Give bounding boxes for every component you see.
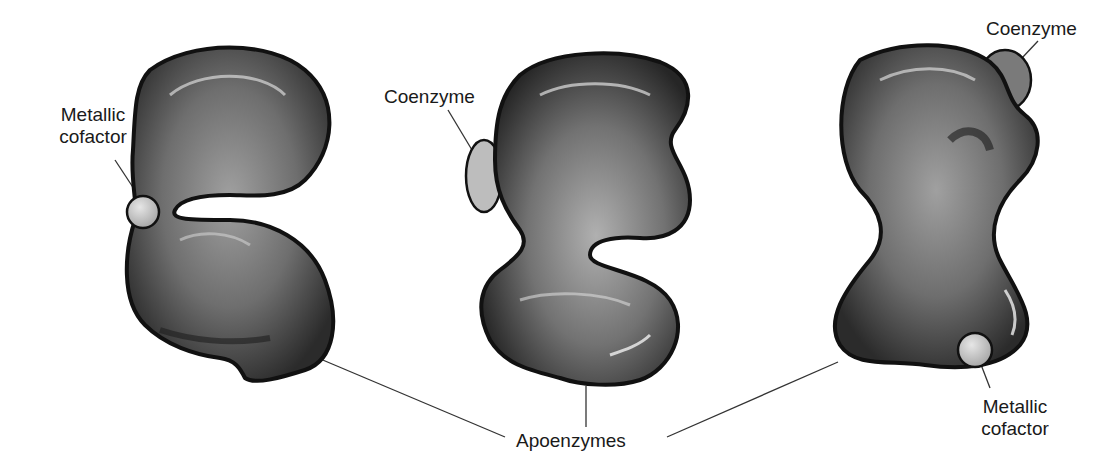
enzyme-diagram [0,0,1111,472]
label-line: cofactor [38,126,148,148]
label-line: cofactor [960,418,1070,440]
label-metallic-cofactor-right: Metallic cofactor [960,396,1070,440]
metallic-cofactor-left [127,196,159,228]
label-line: Metallic [960,396,1070,418]
label-coenzyme-middle: Coenzyme [384,86,475,108]
label-line: Metallic [38,104,148,126]
metallic-cofactor-right [958,333,992,367]
label-metallic-cofactor-left: Metallic cofactor [38,104,148,148]
label-coenzyme-right: Coenzyme [986,18,1077,40]
label-apoenzymes: Apoenzymes [516,430,626,452]
apoenzyme-middle [481,53,690,384]
apoenzyme-right [835,45,1038,367]
